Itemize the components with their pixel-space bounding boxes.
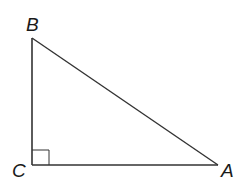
triangle-diagram: B C A — [0, 0, 249, 188]
vertex-label-a: A — [220, 160, 234, 181]
vertex-label-b: B — [26, 14, 39, 35]
vertex-label-c: C — [12, 160, 26, 181]
side-ab-hypotenuse — [32, 38, 218, 165]
right-angle-marker — [32, 150, 49, 165]
